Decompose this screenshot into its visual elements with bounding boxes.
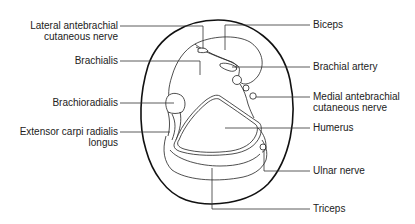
label-line: Extensor carpi radialis [20,126,118,137]
label-lateral-antebrachial-cutaneous-nerve: Lateral antebrachial cutaneous nerve [30,20,118,42]
ulnar-nerve-shape [260,144,266,150]
brachial-vein [233,76,242,85]
medial-antebrachial-nerve-shape [250,93,256,99]
basilic-vessel [243,85,249,91]
leader-brachialis [120,61,200,75]
label-line: Triceps [313,203,345,214]
label-extensor-carpi-radialis-longus: Extensor carpi radialis longus [20,126,118,148]
arm-cross-section-diagram: Lateral antebrachial cutaneous nerve Bra… [0,0,415,224]
leader-ulnar-nerve [264,150,310,171]
label-medial-antebrachial-cutaneous-nerve: Medial antebrachial cutaneous nerve [313,91,400,113]
label-line: longus [20,137,118,148]
label-line: cutaneous nerve [30,31,118,42]
label-line: Humerus [313,122,354,133]
label-line: Medial antebrachial [313,91,400,102]
label-line: Ulnar nerve [313,165,365,176]
label-triceps: Triceps [313,203,345,214]
brachioradialis-muscle [166,93,185,113]
label-line: Lateral antebrachial [30,20,118,31]
label-brachial-artery: Brachial artery [313,61,377,72]
label-ulnar-nerve: Ulnar nerve [313,165,365,176]
label-line: Brachial artery [313,61,377,72]
label-brachioradialis: Brachioradialis [52,97,118,108]
label-line: cutaneous nerve [313,102,400,113]
label-line: Brachioradialis [52,97,118,108]
label-biceps: Biceps [313,19,343,30]
label-line: Brachialis [75,55,118,66]
leader-lateral-antebrachial-nerve [120,26,203,49]
label-humerus: Humerus [313,122,354,133]
label-line: Biceps [313,19,343,30]
label-brachialis: Brachialis [75,55,118,66]
